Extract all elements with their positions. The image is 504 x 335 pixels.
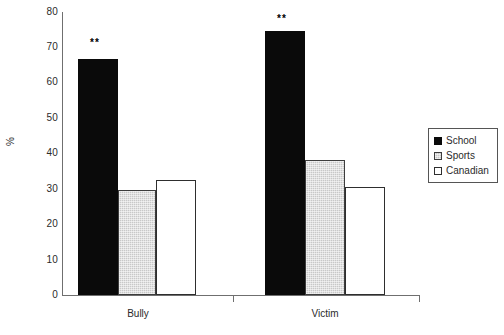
legend-swatch-sports-icon bbox=[434, 152, 442, 160]
y-tick-80: 80 bbox=[32, 7, 58, 17]
significance-marker-victim-school: ** bbox=[277, 14, 287, 24]
y-tick-60: 60 bbox=[32, 77, 58, 87]
legend: School Sports Canadian bbox=[428, 128, 498, 183]
legend-item-canadian[interactable]: Canadian bbox=[434, 163, 493, 178]
bar-bully-canadian bbox=[156, 180, 196, 295]
bar-bully-sports bbox=[118, 190, 156, 295]
legend-item-school[interactable]: School bbox=[434, 133, 493, 148]
x-axis-line bbox=[62, 295, 420, 296]
x-category-label-victim: Victim bbox=[295, 308, 355, 319]
x-axis-tick-end bbox=[419, 296, 420, 302]
legend-swatch-canadian-icon bbox=[434, 167, 442, 175]
bar-victim-canadian bbox=[345, 187, 385, 295]
y-tick-40: 40 bbox=[32, 148, 58, 158]
legend-swatch-school-icon bbox=[434, 137, 442, 145]
bar-bully-school bbox=[78, 59, 118, 295]
bar-victim-school bbox=[265, 31, 305, 295]
y-tick-70: 70 bbox=[32, 42, 58, 52]
y-axis-title: % bbox=[6, 137, 16, 146]
legend-label-school: School bbox=[446, 135, 477, 146]
legend-label-sports: Sports bbox=[446, 150, 475, 161]
y-tick-20: 20 bbox=[32, 219, 58, 229]
y-axis-tick-labels: 80 70 60 50 40 30 20 10 0 bbox=[24, 0, 58, 335]
significance-marker-bully-school: ** bbox=[90, 38, 100, 48]
y-tick-30: 30 bbox=[32, 184, 58, 194]
y-tick-10: 10 bbox=[32, 255, 58, 265]
y-tick-50: 50 bbox=[32, 113, 58, 123]
bar-victim-sports bbox=[305, 160, 345, 295]
x-axis-tick-middle bbox=[233, 296, 234, 302]
legend-label-canadian: Canadian bbox=[446, 165, 489, 176]
x-category-label-bully: Bully bbox=[108, 308, 168, 319]
bar-chart: % 80 70 60 50 40 30 20 10 0 ** ** Bully … bbox=[0, 0, 504, 335]
y-tick-0: 0 bbox=[32, 290, 58, 300]
plot-area: ** ** bbox=[62, 12, 420, 295]
legend-item-sports[interactable]: Sports bbox=[434, 148, 493, 163]
